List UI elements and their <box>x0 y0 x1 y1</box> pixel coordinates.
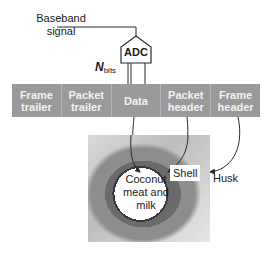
shell-label: Shell <box>170 165 200 181</box>
arrow-overlay <box>0 0 275 263</box>
husk-label: Husk <box>213 172 238 184</box>
